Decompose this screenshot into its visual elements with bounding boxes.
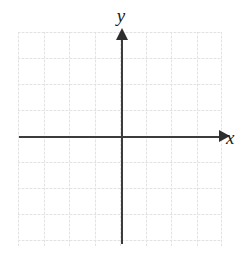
- grid-line-horizontal: [18, 214, 222, 215]
- grid-line-horizontal: [18, 110, 222, 111]
- y-axis: [121, 36, 123, 244]
- y-axis-label: y: [110, 6, 132, 25]
- coordinate-grid: [18, 32, 222, 246]
- grid-line-horizontal: [18, 162, 222, 163]
- grid-line-horizontal: [18, 240, 222, 241]
- grid-line-horizontal: [18, 84, 222, 85]
- grid-line-horizontal: [18, 58, 222, 59]
- x-axis-label: x: [226, 128, 244, 147]
- y-axis-arrow-icon: [116, 28, 128, 40]
- coordinate-plane-figure: y x: [0, 0, 244, 257]
- grid-line-horizontal: [18, 188, 222, 189]
